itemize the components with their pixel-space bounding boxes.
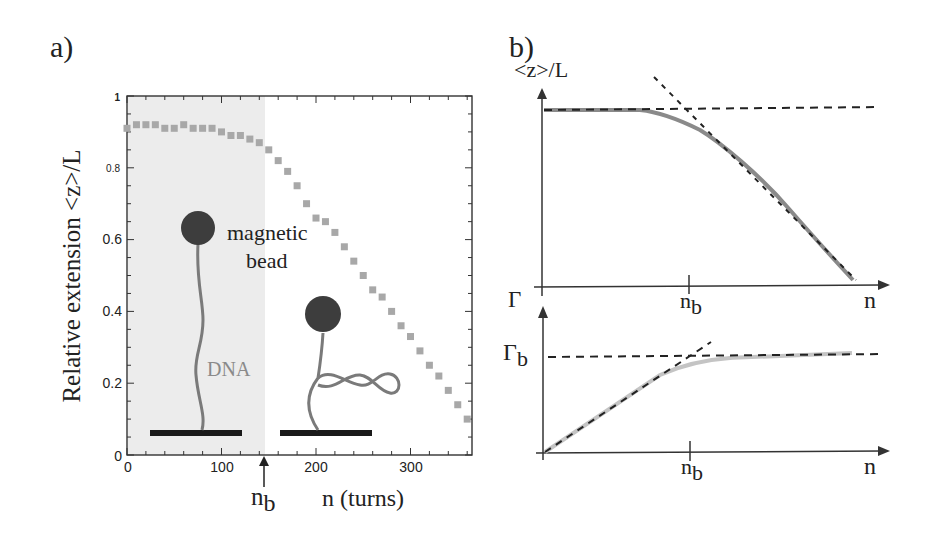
- data-marker: [331, 229, 338, 236]
- y-tick-labels: 0 0.2 0.4 0.6 0.8 1: [103, 92, 123, 464]
- data-marker: [227, 132, 234, 139]
- top-extension-curve: [544, 110, 853, 280]
- x-tick-0: 0: [124, 459, 132, 475]
- data-marker: [360, 272, 367, 279]
- data-marker: [218, 128, 225, 135]
- bottom-y-label: Γ: [508, 287, 521, 312]
- data-marker: [303, 200, 310, 207]
- data-marker: [350, 258, 357, 265]
- y-tick-0.6: 0.6: [103, 231, 123, 247]
- bead-label-2: bead: [246, 248, 288, 273]
- data-marker: [284, 168, 291, 175]
- bottom-nb-label: nb: [681, 454, 703, 485]
- surface-left: [150, 430, 242, 436]
- y-tick-0.2: 0.2: [103, 375, 123, 391]
- data-marker: [161, 125, 168, 132]
- data-marker: [464, 416, 471, 423]
- data-marker: [398, 322, 405, 329]
- data-marker: [322, 218, 329, 225]
- arrow-right-icon: [878, 446, 890, 456]
- x-tick-labels: 0 100 200 300: [124, 459, 423, 475]
- x-axis-label: n (turns): [322, 485, 404, 511]
- plectoneme-loop: [318, 374, 399, 393]
- top-x-label: n: [864, 287, 876, 313]
- data-marker: [209, 125, 216, 132]
- data-marker: [294, 182, 301, 189]
- shaded-region: [128, 96, 265, 455]
- data-marker: [256, 139, 263, 146]
- data-marker: [435, 373, 442, 380]
- data-marker: [180, 121, 187, 128]
- y-tick-0.4: 0.4: [103, 303, 123, 319]
- y-tick-0: 0: [114, 448, 122, 464]
- arrow-up-icon: [537, 88, 547, 99]
- x-tick-200: 200: [304, 459, 328, 475]
- bottom-x-label: n: [864, 453, 876, 479]
- data-marker: [275, 157, 282, 164]
- data-marker: [388, 308, 395, 315]
- magnetic-bead-icon-2: [305, 296, 341, 332]
- y-axis-label: Relative extension <z>/L: [58, 149, 85, 402]
- data-marker: [454, 401, 461, 408]
- y-tick-1: 1: [114, 92, 120, 103]
- x-tick-300: 300: [399, 459, 423, 475]
- panel-a-label: a): [50, 30, 73, 64]
- data-marker: [190, 125, 197, 132]
- nb-label: nb: [251, 483, 276, 516]
- arrow-up-icon: [259, 456, 269, 466]
- data-marker: [171, 125, 178, 132]
- panel-b: b) <z>/L Γ nb n Γb nb n: [503, 30, 890, 485]
- data-marker: [445, 387, 452, 394]
- data-marker: [341, 243, 348, 250]
- arrow-right-icon: [878, 280, 890, 290]
- data-marker: [369, 286, 376, 293]
- data-marker: [237, 132, 244, 139]
- gamma-b-label: Γb: [503, 339, 528, 371]
- data-marker: [313, 215, 320, 222]
- dna-label: DNA: [207, 358, 251, 380]
- panel-a: a) 0 0.2 0.4 0.6 0.8 1 0 100 200 300 Rel…: [50, 30, 472, 516]
- data-marker: [124, 125, 131, 132]
- top-x-axis: [534, 285, 882, 287]
- x-tick-100: 100: [210, 459, 234, 475]
- data-marker: [379, 294, 386, 301]
- data-marker: [426, 362, 433, 369]
- data-marker: [407, 333, 414, 340]
- dna-strand-supercoiled: [309, 333, 323, 430]
- top-y-label: <z>/L: [514, 57, 568, 82]
- bead-label-1: magnetic: [227, 220, 308, 245]
- data-marker: [416, 347, 423, 354]
- data-marker: [199, 125, 206, 132]
- surface-right: [280, 430, 372, 436]
- arrow-up-icon: [538, 306, 548, 318]
- data-marker: [133, 121, 140, 128]
- bottom-x-axis: [536, 451, 882, 453]
- data-marker: [142, 121, 149, 128]
- nb-arrow: nb: [251, 456, 276, 516]
- data-marker: [152, 121, 159, 128]
- top-nb-label: nb: [680, 288, 702, 319]
- magnetic-bead-icon: [181, 211, 215, 245]
- data-marker: [246, 136, 253, 143]
- y-tick-0.8: 0.8: [106, 163, 120, 174]
- data-marker: [265, 146, 272, 153]
- torque-curve: [545, 353, 852, 452]
